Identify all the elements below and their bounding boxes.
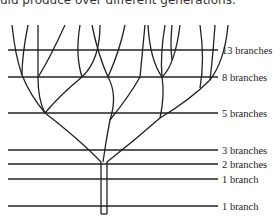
label-8-branches: 8 branches [222,72,267,83]
tree-branches [12,25,228,214]
label-5-branches: 5 branches [222,108,267,119]
label-1-branch-a: 1 branch [222,174,259,185]
label-3-branches: 3 branches [222,145,267,156]
branching-tree-diagram: 13 branches 8 branches 5 branches 3 bran… [0,0,280,217]
generation-labels: 13 branches 8 branches 5 branches 3 bran… [222,45,272,212]
label-2-branches: 2 branches [222,159,267,170]
generation-lines [8,50,218,206]
label-13-branches: 13 branches [222,45,272,56]
label-1-branch-b: 1 branch [222,201,259,212]
